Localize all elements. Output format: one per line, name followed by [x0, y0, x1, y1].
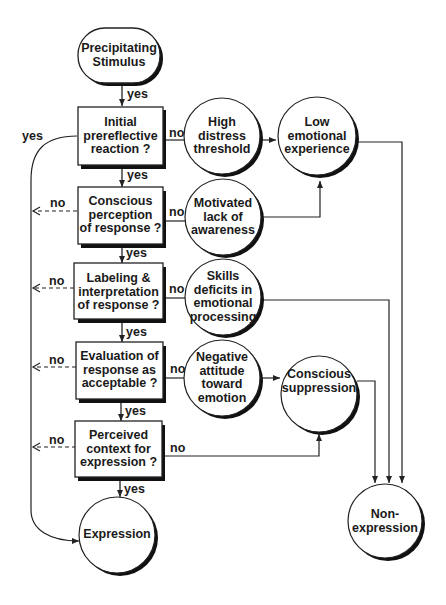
edge-label-no-left: no — [50, 196, 65, 210]
edge-label-yes: yes — [127, 168, 148, 182]
node-negative-attitude: Negative attitude toward emotion — [184, 351, 260, 405]
node-motivated-lack-of-awareness: Motivated lack of awareness — [185, 197, 261, 238]
edge-label-yes: yes — [127, 87, 148, 101]
edge-label-yes: yes — [126, 325, 147, 339]
edge-label-yes: yes — [124, 482, 145, 496]
edge-label-no: no — [169, 282, 184, 296]
edge-label-yes: yes — [126, 246, 147, 260]
dashed-no-arrows — [34, 211, 77, 447]
edge-label-no: no — [170, 362, 185, 376]
decision-labeling-interpretation: Labeling & interpretation of response ? — [74, 272, 163, 313]
decision-perceived-context: Perceived context for expression ? — [75, 429, 162, 470]
decision-evaluation-acceptable: Evaluation of response as acceptable ? — [76, 350, 163, 391]
decision-initial-prereflective: Initial prereflective reaction ? — [78, 116, 163, 157]
start-node: Precipitating Stimulus — [78, 42, 160, 69]
edge-label-no: no — [169, 126, 184, 140]
edge-label-no: no — [170, 441, 185, 455]
edge-label-no-left: no — [49, 274, 64, 288]
node-high-distress-threshold: High distress threshold — [184, 116, 260, 157]
edge-label-yes: yes — [125, 404, 146, 418]
node-conscious-suppression: Conscious suppression — [281, 368, 357, 395]
edge-label-no-left: no — [49, 353, 64, 367]
edge-label-no: no — [169, 205, 184, 219]
node-low-emotional-experience: Low emotional experience — [278, 116, 356, 157]
decision-conscious-perception: Conscious perception of response ? — [78, 195, 163, 236]
outcome-non-expression: Non- expression — [348, 508, 422, 535]
node-skills-deficits: Skills deficits in emotional processing — [185, 270, 261, 324]
outcome-expression: Expression — [79, 528, 155, 542]
edge-label-no-left: no — [49, 433, 64, 447]
edge-label-yes-bypass: yes — [22, 129, 43, 143]
